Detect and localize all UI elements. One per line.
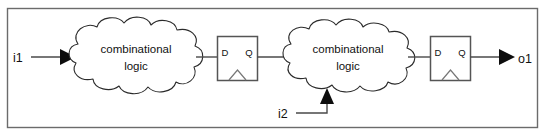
cloud-1-label-line2: logic [124, 60, 148, 72]
flip-flop-1: D Q [218, 37, 258, 81]
combinational-logic-2: combinational logic [283, 19, 415, 92]
output-wire-o1 [470, 49, 515, 65]
flip-flop-2-d-label: D [435, 47, 442, 58]
arrowhead-i2 [320, 88, 334, 104]
sequential-logic-diagram: combinational logic D Q combinational lo… [0, 0, 544, 139]
flip-flop-2: D Q [431, 37, 471, 81]
cloud-shape-2 [283, 19, 415, 92]
cloud-1-label-line1: combinational [101, 43, 172, 55]
flip-flop-1-box [218, 37, 258, 81]
flip-flop-1-q-label: Q [245, 47, 252, 58]
input-wire-i2 [296, 88, 334, 113]
flip-flop-2-q-label: Q [458, 47, 465, 58]
arrowhead-o1 [499, 49, 515, 65]
cloud-2-label-line2: logic [336, 60, 360, 72]
output-label-o1: o1 [518, 52, 532, 66]
flip-flop-2-box [431, 37, 471, 81]
flip-flop-1-d-label: D [222, 47, 229, 58]
input-label-i2: i2 [278, 107, 288, 121]
cloud-2-label-line1: combinational [313, 43, 384, 55]
input-label-i1: i1 [13, 51, 23, 65]
cloud-shape-1 [69, 17, 203, 94]
combinational-logic-1: combinational logic [69, 17, 203, 94]
